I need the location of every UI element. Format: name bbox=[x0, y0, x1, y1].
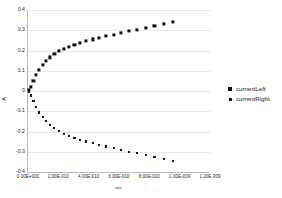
y-tick-label: 0 bbox=[22, 88, 25, 93]
data-point bbox=[136, 28, 139, 31]
x-tick-label: 2.00E-010 bbox=[48, 175, 69, 180]
x-axis-title: sec bbox=[27, 186, 210, 190]
y-tick-label: -0.1 bbox=[16, 109, 25, 114]
data-point bbox=[112, 147, 114, 149]
data-point bbox=[49, 124, 51, 126]
data-point bbox=[79, 139, 81, 141]
data-point bbox=[45, 59, 48, 62]
gridline bbox=[28, 51, 210, 52]
data-point bbox=[145, 154, 147, 156]
data-point bbox=[68, 135, 70, 137]
data-point bbox=[105, 145, 107, 147]
data-point bbox=[120, 149, 122, 151]
data-point bbox=[85, 140, 87, 142]
data-point bbox=[53, 127, 55, 129]
data-point bbox=[49, 56, 52, 59]
data-point bbox=[30, 94, 32, 96]
gridline bbox=[28, 10, 210, 11]
data-point bbox=[85, 39, 88, 42]
data-point bbox=[112, 33, 115, 36]
data-point bbox=[92, 142, 94, 144]
legend-item[interactable]: currentLeft bbox=[228, 86, 270, 92]
x-tick-label: 1.00E-009 bbox=[169, 175, 190, 180]
x-tick-label: 0.00E+000 bbox=[17, 175, 39, 180]
y-tick-label: -0.2 bbox=[16, 129, 25, 134]
gridline bbox=[28, 152, 210, 153]
data-point bbox=[42, 116, 44, 118]
data-point bbox=[153, 156, 155, 158]
data-point bbox=[29, 85, 32, 88]
gridline bbox=[28, 91, 210, 92]
data-point bbox=[28, 91, 30, 93]
data-point bbox=[38, 68, 41, 71]
gridline bbox=[28, 71, 210, 72]
chart-legend: currentLeftcurrentRight bbox=[228, 86, 270, 102]
data-point bbox=[67, 45, 70, 48]
y-axis-title: A bbox=[2, 97, 8, 101]
data-point bbox=[127, 30, 130, 33]
gridline bbox=[28, 111, 210, 112]
x-tick-label: 6.00E-010 bbox=[108, 175, 129, 180]
data-point bbox=[57, 50, 60, 53]
data-point bbox=[128, 151, 130, 153]
legend-marker-icon bbox=[229, 98, 232, 101]
data-point bbox=[98, 144, 100, 146]
legend-label: currentRight bbox=[236, 96, 270, 102]
data-point bbox=[105, 35, 108, 38]
data-point bbox=[144, 26, 147, 29]
data-point bbox=[58, 130, 60, 132]
data-point bbox=[35, 74, 38, 77]
data-point bbox=[32, 100, 34, 102]
data-point bbox=[35, 106, 37, 108]
data-point bbox=[45, 120, 47, 122]
data-point bbox=[73, 43, 76, 46]
data-point bbox=[73, 137, 75, 139]
chart-container: A 0.40.30.20.10-0.1-0.2-0.3-0.4 0.00E+00… bbox=[0, 0, 282, 198]
data-point bbox=[91, 38, 94, 41]
data-point bbox=[136, 152, 138, 154]
data-point bbox=[38, 111, 40, 113]
y-tick-label: 0.3 bbox=[18, 28, 25, 33]
data-point bbox=[79, 41, 82, 44]
legend-label: currentLeft bbox=[236, 86, 266, 92]
x-tick-label: 8.00E-010 bbox=[139, 175, 160, 180]
gridline bbox=[28, 132, 210, 133]
plot-area: 0.40.30.20.10-0.1-0.2-0.3-0.4 0.00E+0002… bbox=[27, 10, 210, 173]
data-point bbox=[120, 31, 123, 34]
y-tick-label: 0.2 bbox=[18, 48, 25, 53]
data-point bbox=[62, 47, 65, 50]
data-point bbox=[98, 36, 101, 39]
data-point bbox=[153, 25, 156, 28]
data-point bbox=[163, 158, 165, 160]
data-point bbox=[53, 53, 56, 56]
legend-marker-icon bbox=[228, 87, 232, 91]
data-point bbox=[172, 160, 174, 162]
legend-item[interactable]: currentRight bbox=[228, 96, 270, 102]
data-point bbox=[171, 21, 174, 24]
x-tick-label: 4.00E-010 bbox=[78, 175, 99, 180]
data-point bbox=[41, 63, 44, 66]
data-point bbox=[63, 132, 65, 134]
data-point bbox=[32, 80, 35, 83]
x-tick-label: 1.20E-009 bbox=[199, 175, 220, 180]
data-point bbox=[162, 23, 165, 26]
y-tick-label: 0.4 bbox=[18, 7, 25, 12]
y-tick-label: -0.3 bbox=[16, 149, 25, 154]
y-tick-label: 0.1 bbox=[18, 68, 25, 73]
